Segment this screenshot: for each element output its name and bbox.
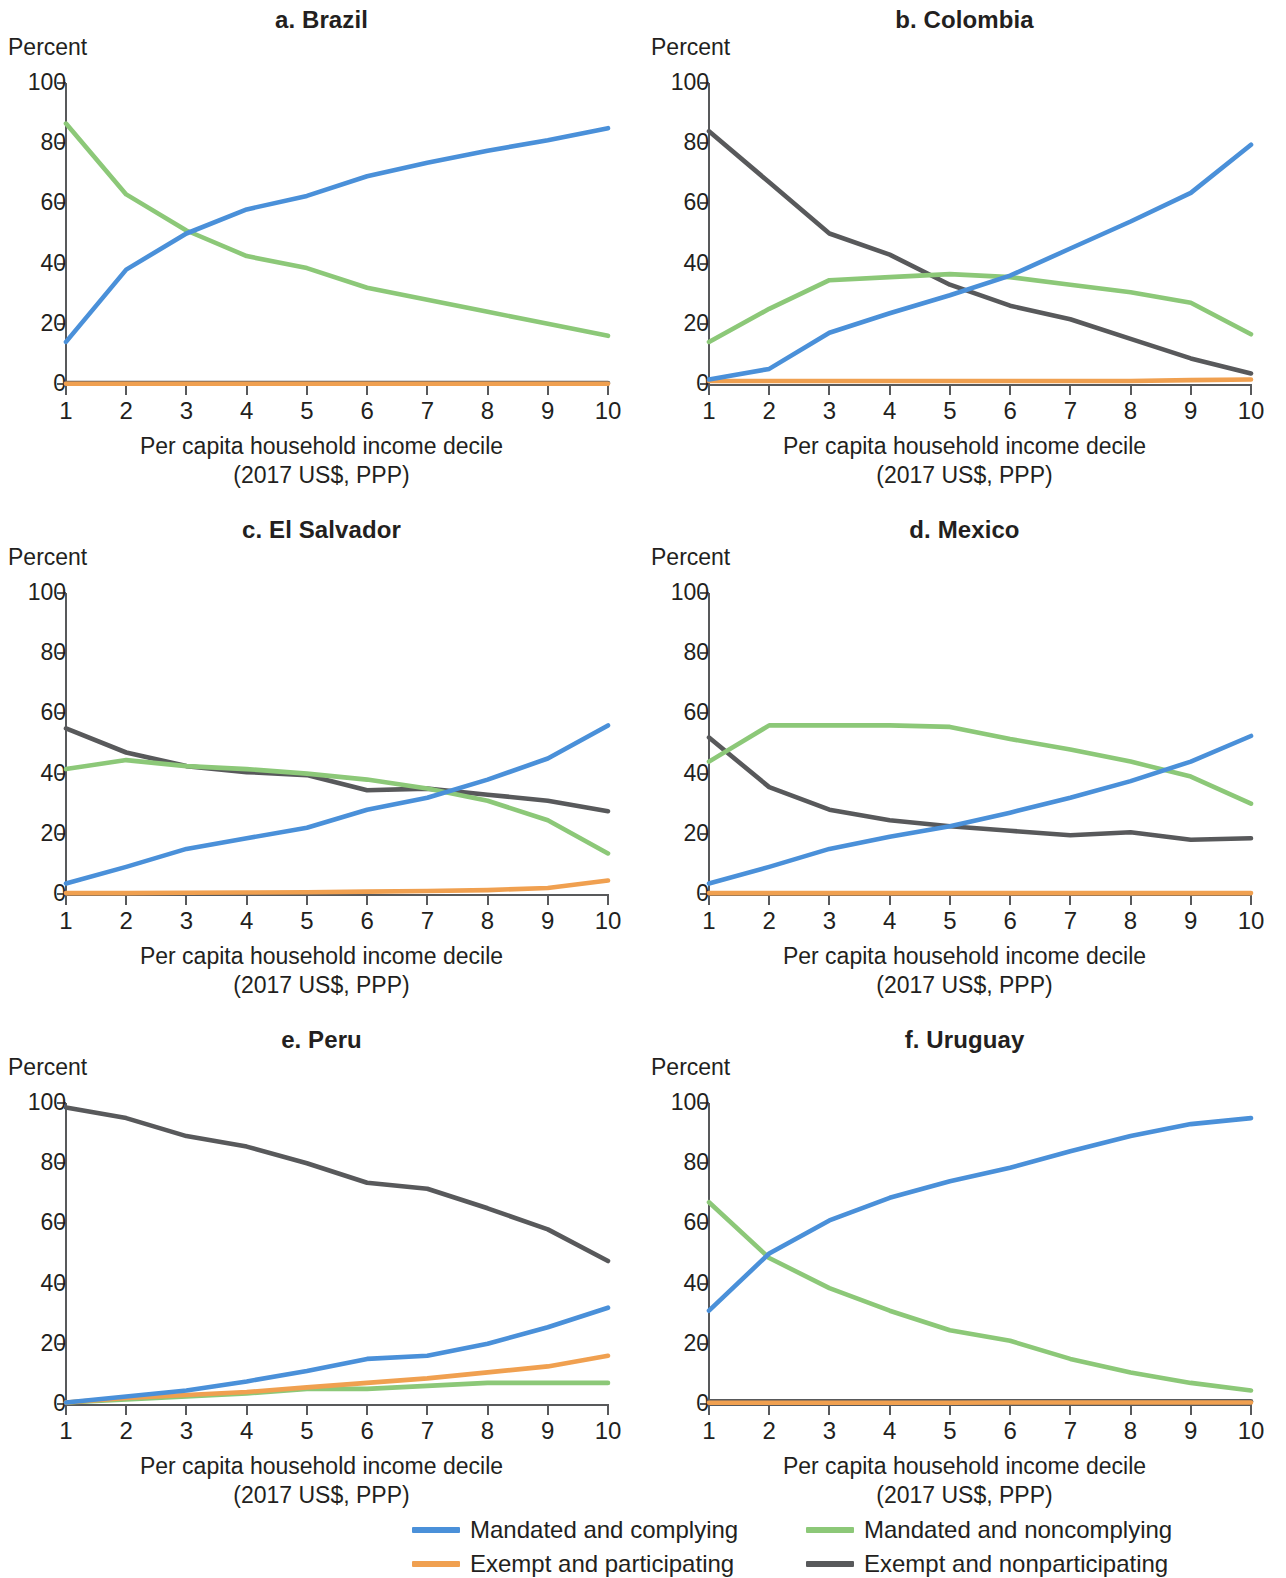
series-line [66, 881, 608, 894]
chart-panel: c. El SalvadorPercent0204060801001234567… [0, 510, 643, 1020]
x-axis-caption-line2: (2017 US$, PPP) [0, 971, 643, 1000]
series-line [709, 145, 1251, 380]
legend-label: Exempt and nonparticipating [864, 1550, 1168, 1578]
legend-label: Mandated and noncomplying [864, 1516, 1172, 1544]
chart-panel: b. ColombiaPercent0204060801001234567891… [643, 0, 1286, 510]
x-axis-caption: Per capita household income decile(2017 … [0, 432, 643, 490]
legend-item[interactable]: Exempt and participating [412, 1550, 782, 1578]
series-line [66, 1108, 608, 1262]
chart-panel: e. PeruPercent02040608010012345678910Per… [0, 1020, 643, 1530]
legend-line-swatch [806, 1561, 854, 1567]
x-axis-caption: Per capita household income decile(2017 … [643, 942, 1286, 1000]
legend-label: Exempt and participating [470, 1550, 734, 1578]
x-axis-caption-line1: Per capita household income decile [0, 942, 643, 971]
legend-line-swatch [806, 1527, 854, 1533]
series-line [709, 131, 1251, 373]
legend-line-swatch [412, 1561, 460, 1567]
series-line [709, 380, 1251, 382]
x-axis-caption-line1: Per capita household income decile [643, 1452, 1286, 1481]
x-axis-caption-line2: (2017 US$, PPP) [643, 461, 1286, 490]
x-axis-caption-line2: (2017 US$, PPP) [0, 1481, 643, 1510]
x-axis-caption-line1: Per capita household income decile [0, 1452, 643, 1481]
series-line [66, 728, 608, 811]
series-line [709, 1202, 1251, 1390]
series-line [66, 760, 608, 853]
series-line [66, 128, 608, 342]
x-axis-caption: Per capita household income decile(2017 … [0, 1452, 643, 1510]
series-line [66, 725, 608, 883]
x-axis-caption-line2: (2017 US$, PPP) [643, 1481, 1286, 1510]
x-axis-caption: Per capita household income decile(2017 … [643, 1452, 1286, 1510]
x-axis-caption-line2: (2017 US$, PPP) [0, 461, 643, 490]
series-line [709, 725, 1251, 803]
x-axis-caption-line2: (2017 US$, PPP) [643, 971, 1286, 1000]
series-line [709, 1118, 1251, 1311]
x-axis-caption: Per capita household income decile(2017 … [643, 432, 1286, 490]
legend-item[interactable]: Exempt and nonparticipating [806, 1550, 1176, 1578]
chart-panel: a. BrazilPercent02040608010012345678910P… [0, 0, 643, 510]
legend-line-swatch [412, 1527, 460, 1533]
series-line [66, 124, 608, 336]
chart-panel-grid: a. BrazilPercent02040608010012345678910P… [0, 0, 1286, 1530]
chart-panel: d. MexicoPercent02040608010012345678910P… [643, 510, 1286, 1020]
series-line [709, 736, 1251, 884]
x-axis-caption-line1: Per capita household income decile [643, 942, 1286, 971]
legend-label: Mandated and complying [470, 1516, 738, 1544]
x-axis-caption-line1: Per capita household income decile [0, 432, 643, 461]
legend-item[interactable]: Mandated and complying [412, 1516, 782, 1544]
chart-legend: Mandated and complyingMandated and nonco… [0, 1516, 1286, 1578]
legend-item[interactable]: Mandated and noncomplying [806, 1516, 1176, 1544]
chart-panel: f. UruguayPercent02040608010012345678910… [643, 1020, 1286, 1530]
x-axis-caption: Per capita household income decile(2017 … [0, 942, 643, 1000]
x-axis-caption-line1: Per capita household income decile [643, 432, 1286, 461]
series-line [709, 738, 1251, 840]
